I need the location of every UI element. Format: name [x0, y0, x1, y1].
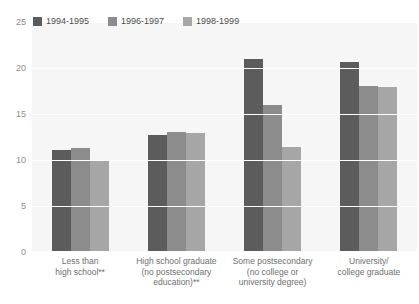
axis-baseline — [32, 251, 417, 252]
legend-swatch-icon — [183, 17, 192, 26]
legend-label: 1994-1995 — [46, 16, 89, 26]
bar — [186, 133, 205, 252]
bar — [71, 148, 90, 252]
y-axis: 0510152025 — [0, 0, 30, 304]
y-axis-tick-label: 10 — [16, 155, 26, 165]
legend-item: 1994-1995 — [33, 16, 89, 26]
bar — [244, 59, 263, 252]
bar — [263, 105, 282, 252]
y-axis-tick-label: 0 — [21, 247, 26, 257]
bar — [282, 147, 301, 252]
x-axis-category-label: Less thanhigh school** — [32, 256, 128, 277]
x-axis-category-label: University/college graduate — [321, 256, 417, 277]
legend: 1994-19951996-19971998-1999 — [33, 16, 239, 26]
y-axis-tick-label: 15 — [16, 109, 26, 119]
gridline — [32, 114, 417, 115]
gridline — [32, 68, 417, 69]
legend-item: 1996-1997 — [108, 16, 164, 26]
bar-group — [32, 22, 128, 252]
bar-group — [321, 22, 417, 252]
bar — [148, 135, 167, 252]
legend-swatch-icon — [108, 17, 117, 26]
y-axis-tick-label: 20 — [16, 63, 26, 73]
legend-item: 1998-1999 — [183, 16, 239, 26]
bar — [52, 150, 71, 252]
y-axis-tick-label: 5 — [21, 201, 26, 211]
bar-group — [128, 22, 224, 252]
bar — [359, 86, 378, 252]
legend-label: 1996-1997 — [121, 16, 164, 26]
y-axis-tick-label: 25 — [16, 17, 26, 27]
bar — [167, 132, 186, 252]
bar-group — [225, 22, 321, 252]
x-axis-category-label: High school graduate(no postsecondaryedu… — [128, 256, 224, 288]
bar — [378, 87, 397, 252]
bar-groups — [32, 22, 417, 252]
cut-off-header-text — [0, 0, 419, 9]
bar — [340, 62, 359, 252]
legend-swatch-icon — [33, 17, 42, 26]
x-axis-category-label: Some postsecondary(no college oruniversi… — [225, 256, 321, 288]
legend-label: 1998-1999 — [196, 16, 239, 26]
plot-area — [32, 22, 417, 252]
x-axis: Less thanhigh school**High school gradua… — [32, 256, 417, 304]
gridline — [32, 206, 417, 207]
bar-chart: 0510152025 1994-19951996-19971998-1999 L… — [0, 0, 419, 304]
gridline — [32, 160, 417, 161]
